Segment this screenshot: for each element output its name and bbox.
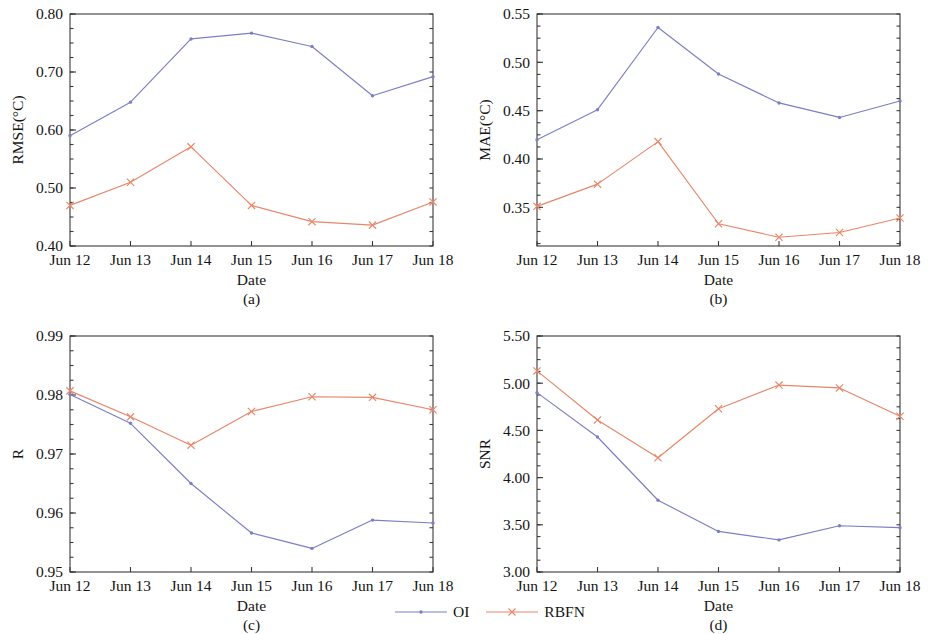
y-tick-label: 0.97	[36, 445, 63, 462]
data-point-rbfn	[654, 138, 661, 145]
dot-marker-icon	[394, 605, 448, 619]
x-tick-label: Jun 17	[819, 577, 860, 594]
x-tick-label: Jun 14	[171, 251, 212, 268]
plot-frame	[70, 14, 433, 246]
data-point-oi	[371, 518, 374, 521]
data-point-oi	[777, 538, 780, 541]
x-tick-label: Jun 12	[517, 251, 558, 268]
x-tick-label: Jun 18	[413, 577, 454, 594]
y-tick-label: 0.40	[503, 150, 530, 167]
legend-label-oi: OI	[453, 604, 469, 620]
data-point-rbfn	[127, 413, 134, 420]
data-point-oi	[656, 499, 659, 502]
legend-label-rbfn: RBFN	[544, 604, 585, 620]
x-tick-label: Jun 18	[880, 251, 921, 268]
data-point-oi	[371, 94, 374, 97]
data-point-oi	[250, 31, 253, 34]
x-tick-label: Jun 13	[577, 577, 618, 594]
series-line-rbfn	[537, 142, 900, 238]
x-marker-icon	[485, 605, 539, 619]
data-point-oi	[310, 547, 313, 550]
x-tick-label: Jun 16	[292, 251, 333, 268]
data-point-oi	[656, 26, 659, 29]
y-tick-label: 0.50	[36, 179, 63, 196]
data-point-oi	[898, 99, 901, 102]
y-tick-label: 5.50	[503, 327, 530, 344]
series-line-rbfn	[70, 391, 433, 445]
y-tick-label: 0.70	[36, 63, 63, 80]
y-tick-label: 3.50	[503, 516, 530, 533]
y-tick-label: 0.50	[503, 54, 530, 71]
x-axis-title: Date	[704, 271, 733, 288]
y-tick-label: 0.98	[36, 386, 63, 403]
panel-caption: (b)	[709, 290, 727, 308]
y-tick-label: 4.00	[503, 469, 530, 486]
data-point-oi	[250, 531, 253, 534]
data-point-rbfn	[187, 442, 194, 449]
plot-d: 3.003.504.004.505.005.50Jun 12Jun 13Jun …	[467, 320, 937, 634]
data-point-oi	[898, 526, 901, 529]
data-point-oi	[535, 138, 538, 141]
panel-caption: (a)	[243, 290, 260, 308]
data-point-oi	[189, 482, 192, 485]
panel-caption: (c)	[243, 616, 260, 634]
x-tick-label: Jun 18	[413, 251, 454, 268]
y-axis-title: SNR	[476, 438, 493, 469]
chart-panel-c: 0.950.960.970.980.99Jun 12Jun 13Jun 14Ju…	[0, 320, 470, 634]
x-tick-label: Jun 18	[880, 577, 921, 594]
y-tick-label: 0.55	[503, 5, 530, 22]
x-tick-label: Jun 13	[577, 251, 618, 268]
series-line-rbfn	[537, 371, 900, 458]
x-tick-label: Jun 12	[50, 251, 91, 268]
y-tick-label: 0.45	[503, 102, 530, 119]
plot-frame	[537, 14, 900, 246]
data-point-oi	[431, 521, 434, 524]
plot-c: 0.950.960.970.980.99Jun 12Jun 13Jun 14Ju…	[0, 320, 470, 634]
data-point-oi	[535, 391, 538, 394]
y-axis-title: RMSE(°C)	[9, 95, 27, 164]
series-line-oi	[70, 394, 433, 548]
data-point-oi	[838, 524, 841, 527]
y-tick-label: 0.80	[36, 5, 63, 22]
x-tick-label: Jun 15	[231, 251, 272, 268]
x-tick-label: Jun 13	[110, 577, 151, 594]
x-tick-label: Jun 14	[638, 577, 679, 594]
y-tick-label: 0.60	[36, 121, 63, 138]
y-tick-label: 0.35	[503, 199, 530, 216]
data-point-oi	[189, 37, 192, 40]
x-tick-label: Jun 16	[292, 577, 333, 594]
x-tick-label: Jun 17	[352, 251, 393, 268]
x-tick-label: Jun 16	[759, 577, 800, 594]
x-tick-label: Jun 12	[517, 577, 558, 594]
data-point-oi	[310, 45, 313, 48]
data-point-rbfn	[187, 143, 194, 150]
x-tick-label: Jun 16	[759, 251, 800, 268]
x-tick-label: Jun 14	[638, 251, 679, 268]
panel-caption: (d)	[709, 616, 727, 634]
data-point-oi	[838, 116, 841, 119]
x-tick-label: Jun 15	[231, 577, 272, 594]
x-tick-label: Jun 13	[110, 251, 151, 268]
legend-entry-oi: OI	[394, 604, 469, 620]
data-point-oi	[68, 134, 71, 137]
data-point-rbfn	[248, 408, 255, 415]
chart-panel-a: 0.400.500.600.700.80Jun 12Jun 13Jun 14Ju…	[0, 0, 470, 320]
x-tick-label: Jun 17	[819, 251, 860, 268]
data-point-rbfn	[594, 416, 601, 423]
legend-entry-rbfn: RBFN	[485, 604, 585, 620]
x-tick-label: Jun 12	[50, 577, 91, 594]
data-point-oi	[717, 72, 720, 75]
data-point-oi	[431, 75, 434, 78]
data-point-rbfn	[127, 179, 134, 186]
plot-frame	[70, 336, 433, 572]
y-tick-label: 5.00	[503, 375, 530, 392]
plot-b: 0.350.400.450.500.55Jun 12Jun 13Jun 14Ju…	[467, 0, 937, 320]
x-axis-title: Date	[237, 271, 266, 288]
x-axis-title: Date	[704, 597, 733, 614]
plot-a: 0.400.500.600.700.80Jun 12Jun 13Jun 14Ju…	[0, 0, 470, 320]
y-tick-label: 0.96	[36, 504, 63, 521]
y-axis-title: MAE(°C)	[476, 99, 494, 160]
series-line-oi	[70, 33, 433, 136]
x-tick-label: Jun 15	[698, 251, 739, 268]
data-point-rbfn	[654, 454, 661, 461]
